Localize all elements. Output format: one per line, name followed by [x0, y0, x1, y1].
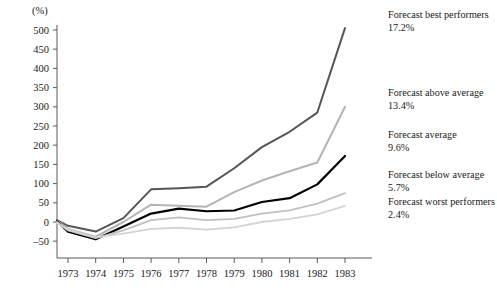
y-axis-tick-label: 350 — [33, 82, 49, 93]
x-axis-tick-label: 1983 — [335, 268, 356, 279]
annotation-forecast-worst-performers: Forecast worst performers2.4% — [388, 196, 495, 220]
y-axis-tick-label: 200 — [33, 140, 49, 151]
x-axis-tick-label: 1979 — [224, 268, 245, 279]
annotation-value: 13.4% — [388, 100, 415, 111]
annotation-value: 9.6% — [388, 142, 410, 153]
y-axis: –50050100150200250300350400450500 — [32, 25, 57, 258]
y-axis-tick-label: 300 — [33, 101, 49, 112]
series-lines — [57, 28, 345, 239]
y-axis-tick-label: 150 — [33, 159, 49, 170]
x-axis-tick-label: 1974 — [85, 268, 107, 279]
x-axis-tick-label: 1981 — [279, 268, 300, 279]
annotation-label: Forecast average — [388, 129, 457, 140]
x-axis-tick-label: 1982 — [307, 268, 328, 279]
chart-canvas: (%) –50050100150200250300350400450500 19… — [0, 0, 497, 293]
x-axis: 1973197419751976197719781979198019811982… — [57, 258, 372, 279]
y-axis-tick-label: 100 — [33, 178, 49, 189]
x-axis-tick-label: 1976 — [141, 268, 162, 279]
annotation-label: Forecast best performers — [388, 9, 489, 20]
annotation-value: 17.2% — [388, 22, 415, 33]
series-line-forecast-best-performers — [57, 28, 345, 232]
annotation-forecast-best-performers: Forecast best performers17.2% — [388, 9, 489, 33]
y-axis-tick-label: –50 — [32, 236, 49, 247]
annotation-value: 2.4% — [388, 209, 410, 220]
x-axis-tick-label: 1977 — [168, 268, 189, 279]
x-axis-tick-label: 1980 — [251, 268, 272, 279]
y-axis-tick-label: 0 — [44, 217, 49, 228]
y-axis-unit-label: (%) — [32, 5, 48, 17]
y-axis-tick-label: 400 — [33, 63, 49, 74]
y-axis-tick-label: 500 — [33, 25, 49, 36]
forecast-growth-line-chart: (%) –50050100150200250300350400450500 19… — [0, 0, 497, 293]
x-axis-tick-label: 1975 — [113, 268, 134, 279]
annotation-label: Forecast worst performers — [388, 196, 495, 207]
annotation-forecast-above-average: Forecast above average13.4% — [388, 87, 484, 111]
annotation-label: Forecast above average — [388, 87, 484, 98]
y-axis-tick-label: 250 — [33, 121, 49, 132]
series-annotations: Forecast best performers17.2%Forecast ab… — [388, 9, 495, 220]
y-axis-tick-label: 450 — [33, 44, 49, 55]
x-axis-tick-label: 1973 — [58, 268, 79, 279]
y-axis-tick-label: 50 — [39, 197, 50, 208]
annotation-label: Forecast below average — [388, 169, 485, 180]
annotation-forecast-average: Forecast average9.6% — [388, 129, 457, 153]
annotation-value: 5.7% — [388, 182, 410, 193]
y-axis-unit-group: (%) — [32, 5, 48, 17]
x-axis-tick-label: 1978 — [196, 268, 217, 279]
series-line-forecast-below-average — [57, 193, 345, 238]
annotation-forecast-below-average: Forecast below average5.7% — [388, 169, 485, 193]
